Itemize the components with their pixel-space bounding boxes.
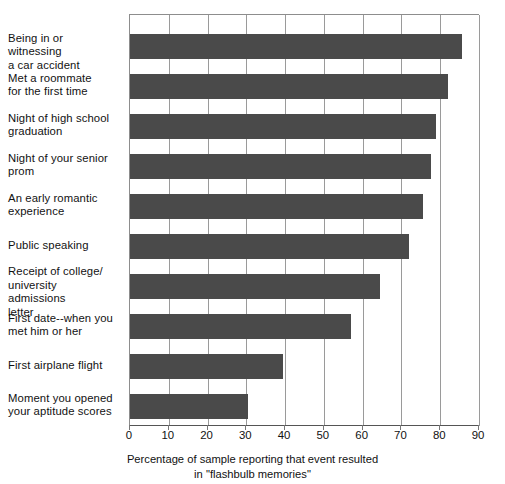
x-axis-title-line-2: in "flashbulb memories" xyxy=(0,467,505,482)
category-label-line: met him or her xyxy=(8,325,113,339)
category-label: Being in or witnessinga car accident xyxy=(8,32,113,73)
x-tick-label-90: 90 xyxy=(458,429,498,441)
plot-area xyxy=(129,14,479,426)
category-label-line: First airplane flight xyxy=(8,359,113,373)
x-tick-label-40: 40 xyxy=(264,429,304,441)
category-label: Moment you openedyour aptitude scores xyxy=(8,392,113,419)
category-label: Night of high schoolgraduation xyxy=(8,112,113,139)
category-label-line: Public speaking xyxy=(8,239,113,253)
bar xyxy=(130,194,423,219)
x-tick-label-60: 60 xyxy=(342,429,382,441)
category-label-line: First date--when you xyxy=(8,312,113,326)
bar xyxy=(130,34,462,59)
category-label: First airplane flight xyxy=(8,359,113,373)
bar xyxy=(130,274,380,299)
category-label-line: Moment you opened xyxy=(8,392,113,406)
x-tick-label-20: 20 xyxy=(187,429,227,441)
gridline-90 xyxy=(479,15,480,426)
category-label-line: university admissions xyxy=(8,279,113,306)
bar xyxy=(130,394,248,419)
plot-inner xyxy=(130,15,479,426)
category-label: Met a roommatefor the first time xyxy=(8,72,113,99)
category-label-line: prom xyxy=(8,165,113,179)
bar xyxy=(130,154,431,179)
x-tick-label-10: 10 xyxy=(148,429,188,441)
category-label: An early romanticexperience xyxy=(8,192,113,219)
category-label-line: Met a roommate xyxy=(8,72,113,86)
category-label-line: a car accident xyxy=(8,59,113,73)
x-axis-title: Percentage of sample reporting that even… xyxy=(0,452,505,481)
x-axis-title-line-1: Percentage of sample reporting that even… xyxy=(0,452,505,467)
category-label: Public speaking xyxy=(8,239,113,253)
x-tick-label-0: 0 xyxy=(109,429,149,441)
bar xyxy=(130,234,409,259)
bar xyxy=(130,314,351,339)
x-tick-label-80: 80 xyxy=(419,429,459,441)
category-label-line: for the first time xyxy=(8,85,113,99)
bar xyxy=(130,74,448,99)
x-tick-label-30: 30 xyxy=(225,429,265,441)
category-label-line: Night of your senior xyxy=(8,152,113,166)
flashbulb-memories-bar-chart: Being in or witnessinga car accidentMet … xyxy=(0,0,505,484)
category-label-line: graduation xyxy=(8,125,113,139)
x-tick-label-70: 70 xyxy=(380,429,420,441)
category-label-line: An early romantic xyxy=(8,192,113,206)
category-label: First date--when youmet him or her xyxy=(8,312,113,339)
bar xyxy=(130,354,283,379)
category-label-line: Night of high school xyxy=(8,112,113,126)
x-tick-label-50: 50 xyxy=(303,429,343,441)
category-axis-labels: Being in or witnessinga car accidentMet … xyxy=(0,14,122,425)
x-axis-line xyxy=(129,425,479,426)
category-label-line: Being in or witnessing xyxy=(8,32,113,59)
category-label-line: experience xyxy=(8,205,113,219)
category-label-line: your aptitude scores xyxy=(8,405,113,419)
category-label-line: Receipt of college/ xyxy=(8,265,113,279)
category-label: Night of your seniorprom xyxy=(8,152,113,179)
bar xyxy=(130,114,436,139)
